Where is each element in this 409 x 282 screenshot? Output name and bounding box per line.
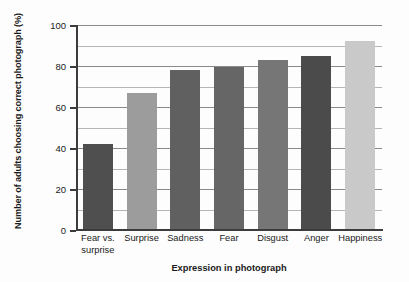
x-tick-label: Fear bbox=[207, 233, 251, 245]
x-tick-label-line: Fear vs. bbox=[76, 233, 120, 245]
bar[interactable] bbox=[301, 56, 331, 230]
x-tick-label-line: Disgust bbox=[251, 233, 295, 245]
bar-series bbox=[76, 25, 382, 230]
x-tick-label-line: Surprise bbox=[120, 233, 164, 245]
x-axis-title: Expression in photograph bbox=[76, 263, 382, 273]
x-tick-label: Fear vs.surprise bbox=[76, 233, 120, 256]
y-tick-label: 60 bbox=[40, 102, 66, 113]
x-axis-tick-labels: Fear vs.surpriseSurpriseSadnessFearDisgu… bbox=[76, 233, 382, 261]
bar[interactable] bbox=[345, 41, 375, 230]
bar[interactable] bbox=[214, 67, 244, 230]
y-tick-mark bbox=[70, 230, 76, 232]
x-tick-label-line: Happiness bbox=[338, 233, 382, 245]
y-axis-line bbox=[76, 25, 78, 231]
y-tick-mark bbox=[70, 148, 76, 150]
bar-chart-figure: Number of adults choosing correct photog… bbox=[0, 0, 409, 282]
y-axis-title-wrapper: Number of adults choosing correct photog… bbox=[4, 18, 34, 232]
y-tick-label: 100 bbox=[40, 20, 66, 31]
x-axis-line bbox=[76, 229, 383, 231]
x-tick-label: Surprise bbox=[120, 233, 164, 245]
x-tick-label: Sadness bbox=[163, 233, 207, 245]
y-tick-mark bbox=[70, 66, 76, 68]
x-tick-label-line: surprise bbox=[76, 245, 120, 257]
bar[interactable] bbox=[83, 144, 113, 230]
y-tick-label: 20 bbox=[40, 184, 66, 195]
x-tick-label: Anger bbox=[295, 233, 339, 245]
bar[interactable] bbox=[258, 60, 288, 230]
x-tick-label-line: Sadness bbox=[163, 233, 207, 245]
x-tick-label: Disgust bbox=[251, 233, 295, 245]
y-tick-mark bbox=[70, 25, 76, 27]
y-tick-label: 40 bbox=[40, 143, 66, 154]
y-tick-label: 0 bbox=[40, 225, 66, 236]
y-tick-mark bbox=[70, 189, 76, 191]
x-tick-label: Happiness bbox=[338, 233, 382, 245]
bar[interactable] bbox=[170, 70, 200, 230]
x-tick-label-line: Anger bbox=[295, 233, 339, 245]
bar[interactable] bbox=[127, 93, 157, 230]
x-tick-label-line: Fear bbox=[207, 233, 251, 245]
y-tick-label: 80 bbox=[40, 61, 66, 72]
y-tick-mark bbox=[70, 107, 76, 109]
plot-area bbox=[76, 25, 382, 230]
y-axis-title: Number of adults choosing correct photog… bbox=[13, 21, 25, 229]
